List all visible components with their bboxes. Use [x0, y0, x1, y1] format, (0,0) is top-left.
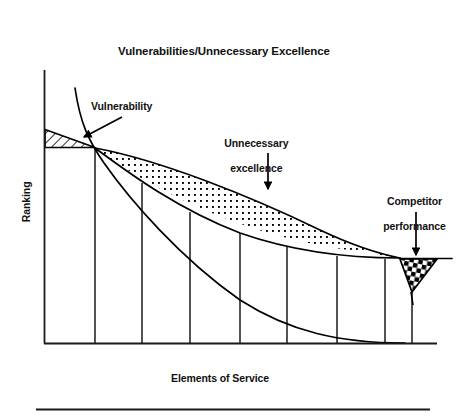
annotation-vulnerability: Vulnerability: [91, 101, 152, 113]
region-vulnerability: [44, 126, 100, 150]
figure-page: Vulnerabilities/Unnecessary Excellence R…: [0, 0, 464, 417]
annotation-unnecessary-excellence-line-1: Unnecessary: [224, 137, 288, 149]
x-axis-label: Elements of Service: [0, 373, 440, 385]
region-competitor-performance: [396, 255, 442, 305]
annotation-unnecessary-excellence-line-2: excellence: [230, 162, 282, 174]
y-axis-label: Ranking: [21, 167, 33, 237]
annotation-competitor-performance: Competitor performance: [372, 183, 446, 245]
annotation-competitor-performance-line-2: performance: [383, 220, 446, 232]
annotation-unnecessary-excellence: Unnecessary excellence: [213, 125, 289, 187]
vulnerability-arrow-icon: [84, 117, 122, 137]
annotation-competitor-performance-line-1: Competitor: [387, 195, 442, 207]
page-title: Vulnerabilities/Unnecessary Excellence: [118, 45, 330, 58]
